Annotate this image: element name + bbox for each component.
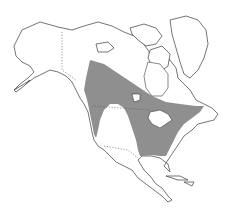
range-map (0, 0, 232, 213)
cuba (166, 176, 188, 180)
hispaniola (184, 182, 194, 186)
aleutian-peninsula (14, 80, 30, 92)
